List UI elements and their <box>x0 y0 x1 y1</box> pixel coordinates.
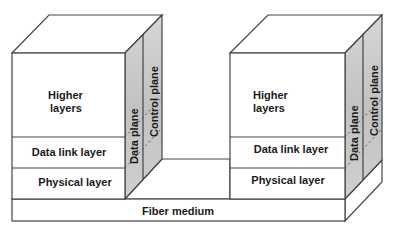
fiber-medium-label: Fiber medium <box>142 205 214 217</box>
left-data-link-layer-label: Data link layer <box>32 146 107 158</box>
right-control-plane-label: Control plane <box>368 65 380 136</box>
right-data-plane-label: Data plane <box>348 105 360 161</box>
left-control-plane-label: Control plane <box>148 66 160 137</box>
right-physical-layer-label: Physical layer <box>251 174 325 186</box>
left-higher-layers-label-1: Higher <box>48 89 84 101</box>
right-higher-layers-label-1: Higher <box>253 89 289 101</box>
protocol-stack-diagram: Fiber medium Higher layers Data link lay… <box>0 0 395 230</box>
right-node: Higher layers Data link layer Physical l… <box>230 15 382 199</box>
right-data-link-layer-label: Data link layer <box>254 143 329 155</box>
left-data-plane-label: Data plane <box>128 108 140 164</box>
left-higher-layers-label-2: layers <box>50 102 82 114</box>
left-physical-layer-label: Physical layer <box>38 176 112 188</box>
left-node: Higher layers Data link layer Physical l… <box>12 15 162 199</box>
right-higher-layers-label-2: layers <box>253 102 285 114</box>
